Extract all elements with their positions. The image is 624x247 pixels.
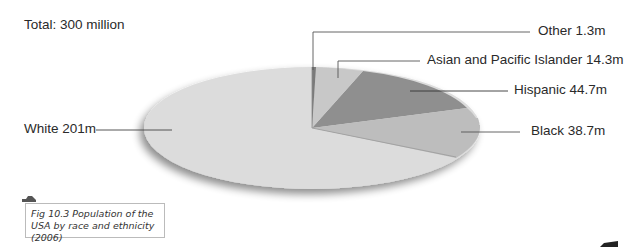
label-hispanic: Hispanic 44.7m bbox=[514, 82, 607, 97]
figure-marker-icon bbox=[22, 196, 36, 202]
label-other: Other 1.3m bbox=[538, 23, 606, 38]
figure-caption: Fig 10.3 Population of the USA by race a… bbox=[25, 203, 165, 238]
label-black: Black 38.7m bbox=[531, 123, 605, 138]
corner-mark-icon bbox=[600, 241, 618, 247]
label-asian: Asian and Pacific Islander 14.3m bbox=[427, 52, 624, 67]
label-white: White 201m bbox=[24, 121, 96, 136]
